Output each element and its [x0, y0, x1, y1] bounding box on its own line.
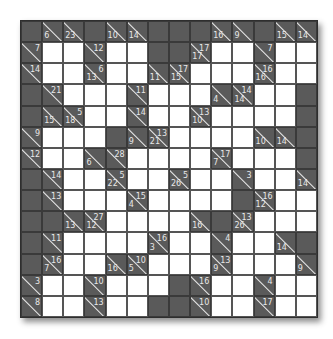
- entry-cell[interactable]: [211, 63, 232, 84]
- entry-cell[interactable]: [232, 63, 253, 84]
- entry-cell[interactable]: [296, 296, 317, 317]
- entry-cell[interactable]: [63, 148, 84, 169]
- entry-cell[interactable]: [190, 190, 211, 211]
- entry-cell[interactable]: [42, 42, 63, 63]
- entry-cell[interactable]: [148, 211, 169, 232]
- entry-cell[interactable]: [127, 296, 148, 317]
- entry-cell[interactable]: [296, 211, 317, 232]
- entry-cell[interactable]: [106, 211, 127, 232]
- entry-cell[interactable]: [275, 148, 296, 169]
- entry-cell[interactable]: [169, 148, 190, 169]
- entry-cell[interactable]: [232, 127, 253, 148]
- entry-cell[interactable]: [254, 254, 275, 275]
- entry-cell[interactable]: [127, 148, 148, 169]
- entry-cell[interactable]: [211, 296, 232, 317]
- entry-cell[interactable]: [42, 296, 63, 317]
- entry-cell[interactable]: [275, 169, 296, 190]
- entry-cell[interactable]: [211, 190, 232, 211]
- entry-cell[interactable]: [63, 254, 84, 275]
- entry-cell[interactable]: [169, 232, 190, 253]
- entry-cell[interactable]: [42, 63, 63, 84]
- entry-cell[interactable]: [42, 127, 63, 148]
- entry-cell[interactable]: [63, 42, 84, 63]
- entry-cell[interactable]: [169, 84, 190, 105]
- entry-cell[interactable]: [42, 148, 63, 169]
- entry-cell[interactable]: [190, 169, 211, 190]
- entry-cell[interactable]: [63, 232, 84, 253]
- entry-cell[interactable]: [169, 254, 190, 275]
- entry-cell[interactable]: [211, 42, 232, 63]
- entry-cell[interactable]: [127, 63, 148, 84]
- entry-cell[interactable]: [106, 296, 127, 317]
- entry-cell[interactable]: [63, 63, 84, 84]
- entry-cell[interactable]: [169, 127, 190, 148]
- entry-cell[interactable]: [190, 148, 211, 169]
- entry-cell[interactable]: [275, 275, 296, 296]
- entry-cell[interactable]: [232, 106, 253, 127]
- entry-cell[interactable]: [232, 296, 253, 317]
- entry-cell[interactable]: [169, 106, 190, 127]
- entry-cell[interactable]: [211, 127, 232, 148]
- entry-cell[interactable]: [232, 254, 253, 275]
- entry-cell[interactable]: [127, 275, 148, 296]
- entry-cell[interactable]: [275, 254, 296, 275]
- entry-cell[interactable]: [106, 42, 127, 63]
- entry-cell[interactable]: [190, 232, 211, 253]
- entry-cell[interactable]: [106, 275, 127, 296]
- entry-cell[interactable]: [232, 42, 253, 63]
- entry-cell[interactable]: [63, 190, 84, 211]
- entry-cell[interactable]: [84, 127, 105, 148]
- entry-cell[interactable]: [254, 232, 275, 253]
- entry-cell[interactable]: [84, 190, 105, 211]
- entry-cell[interactable]: [275, 296, 296, 317]
- entry-cell[interactable]: [63, 296, 84, 317]
- entry-cell[interactable]: [275, 211, 296, 232]
- entry-cell[interactable]: [63, 127, 84, 148]
- entry-cell[interactable]: [275, 63, 296, 84]
- entry-cell[interactable]: [296, 42, 317, 63]
- entry-cell[interactable]: [232, 148, 253, 169]
- entry-cell[interactable]: [211, 169, 232, 190]
- entry-cell[interactable]: [254, 211, 275, 232]
- entry-cell[interactable]: [106, 232, 127, 253]
- entry-cell[interactable]: [254, 84, 275, 105]
- entry-cell[interactable]: [127, 169, 148, 190]
- entry-cell[interactable]: [275, 190, 296, 211]
- entry-cell[interactable]: [84, 169, 105, 190]
- entry-cell[interactable]: [148, 190, 169, 211]
- entry-cell[interactable]: [275, 84, 296, 105]
- entry-cell[interactable]: [254, 148, 275, 169]
- entry-cell[interactable]: [232, 275, 253, 296]
- entry-cell[interactable]: [296, 190, 317, 211]
- entry-cell[interactable]: [84, 254, 105, 275]
- entry-cell[interactable]: [127, 211, 148, 232]
- entry-cell[interactable]: [254, 106, 275, 127]
- entry-cell[interactable]: [296, 275, 317, 296]
- entry-cell[interactable]: [211, 106, 232, 127]
- entry-cell[interactable]: [84, 84, 105, 105]
- entry-cell[interactable]: [63, 84, 84, 105]
- entry-cell[interactable]: [169, 190, 190, 211]
- entry-cell[interactable]: [148, 148, 169, 169]
- entry-cell[interactable]: [127, 42, 148, 63]
- entry-cell[interactable]: [190, 63, 211, 84]
- entry-cell[interactable]: [275, 42, 296, 63]
- entry-cell[interactable]: [275, 106, 296, 127]
- entry-cell[interactable]: [148, 254, 169, 275]
- entry-cell[interactable]: [190, 254, 211, 275]
- entry-cell[interactable]: [106, 190, 127, 211]
- entry-cell[interactable]: [84, 106, 105, 127]
- entry-cell[interactable]: [106, 63, 127, 84]
- entry-cell[interactable]: [190, 127, 211, 148]
- entry-cell[interactable]: [84, 232, 105, 253]
- entry-cell[interactable]: [254, 169, 275, 190]
- entry-cell[interactable]: [148, 169, 169, 190]
- entry-cell[interactable]: [63, 169, 84, 190]
- entry-cell[interactable]: [148, 106, 169, 127]
- entry-cell[interactable]: [127, 232, 148, 253]
- entry-cell[interactable]: [148, 84, 169, 105]
- entry-cell[interactable]: [63, 275, 84, 296]
- entry-cell[interactable]: [42, 275, 63, 296]
- entry-cell[interactable]: [106, 84, 127, 105]
- entry-cell[interactable]: [232, 232, 253, 253]
